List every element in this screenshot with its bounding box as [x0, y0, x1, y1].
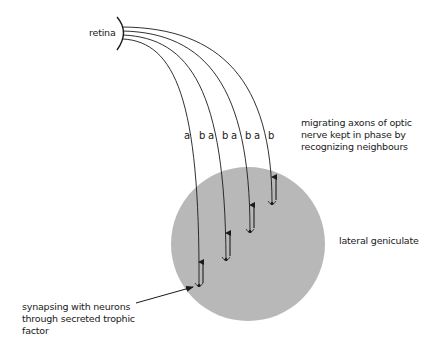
axon-label-b-3: b — [245, 130, 251, 142]
axon-label-b-2: b — [222, 130, 228, 142]
axon-label-a-1: a — [184, 130, 190, 142]
pointer-arrow-icon — [136, 287, 193, 303]
migrating-axons-label: migrating axons of optic nerve kept in p… — [301, 117, 412, 153]
axon-label-b-1: b — [199, 130, 205, 142]
axon-label-a-2: a — [208, 130, 214, 142]
retina-arc — [117, 17, 124, 50]
axon-label-a-3: a — [231, 130, 237, 142]
synapsing-label: synapsing with neurons through secreted … — [22, 301, 135, 337]
axon-label-b-4: b — [268, 130, 274, 142]
lateral-geniculate-label: lateral geniculate — [339, 235, 419, 247]
lateral-geniculate-nucleus — [171, 167, 325, 321]
retina-label: retina — [89, 27, 116, 39]
axon-label-a-4: a — [254, 130, 260, 142]
